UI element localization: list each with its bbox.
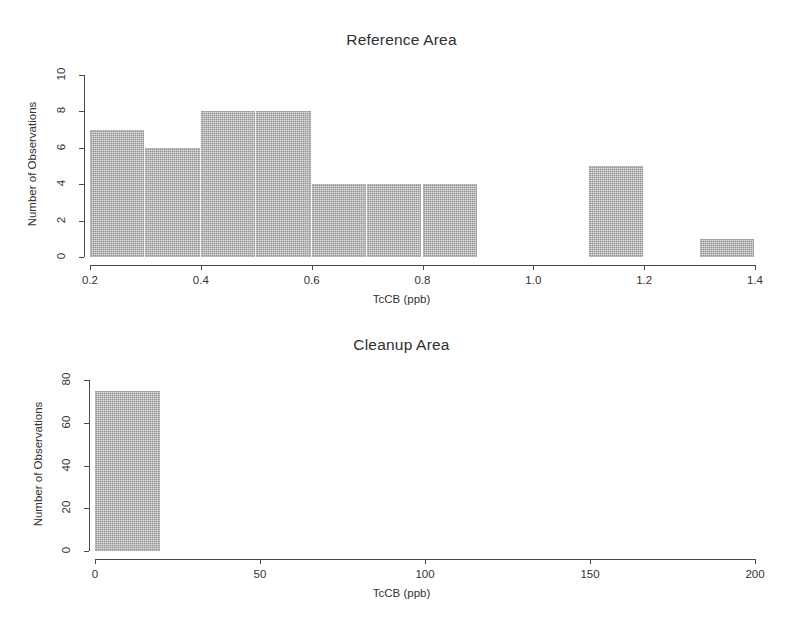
x-axis-tick-label: 50: [254, 568, 267, 580]
y-axis-tick: [84, 466, 89, 467]
y-axis-tick: [84, 508, 89, 509]
x-axis-tick-label: 100: [415, 568, 434, 580]
y-axis-tick: [84, 423, 89, 424]
cleanup-area-plot: [95, 380, 755, 551]
x-axis-tick: [260, 559, 261, 564]
x-axis-tick: [755, 265, 756, 270]
x-axis-tick: [201, 265, 202, 270]
x-axis-tick-label: 1.4: [747, 274, 763, 286]
x-axis-tick: [755, 559, 756, 564]
x-axis-tick-label: 1.2: [636, 274, 652, 286]
x-axis-tick-label: 0.4: [193, 274, 209, 286]
y-axis-tick-label: 60: [60, 407, 72, 437]
y-axis-tick: [79, 257, 84, 258]
y-axis-tick-label: 80: [60, 364, 72, 394]
histogram-bar: [589, 166, 643, 257]
y-axis-tick-label: 0: [55, 241, 67, 271]
reference-area-plot: [90, 75, 755, 257]
histogram-bar: [256, 111, 310, 257]
y-axis-line: [89, 380, 90, 551]
y-axis-tick-label: 2: [55, 205, 67, 235]
y-axis-tick-label: 10: [55, 59, 67, 89]
x-axis-tick: [423, 265, 424, 270]
x-axis-tick: [590, 559, 591, 564]
x-axis-tick: [644, 265, 645, 270]
cleanup-area-panel: Cleanup Area Number of Observations TcCB…: [0, 320, 803, 641]
chart-title-reference: Reference Area: [0, 31, 803, 49]
x-axis-tick: [90, 265, 91, 270]
y-axis-tick-label: 6: [55, 132, 67, 162]
histogram-bar: [312, 184, 366, 257]
x-axis-tick-label: 200: [745, 568, 764, 580]
y-axis-tick-label: 40: [60, 450, 72, 480]
y-axis-tick-label: 4: [55, 168, 67, 198]
x-axis-tick: [312, 265, 313, 270]
y-axis-tick: [79, 184, 84, 185]
histogram-bar: [201, 111, 255, 257]
y-axis-tick: [79, 221, 84, 222]
x-axis-tick-label: 0: [92, 568, 98, 580]
y-axis-tick-label: 8: [55, 95, 67, 125]
histogram-bar: [423, 184, 477, 257]
y-axis-tick: [79, 148, 84, 149]
x-axis-label-cleanup: TcCB (ppb): [0, 587, 803, 599]
y-axis-tick: [79, 111, 84, 112]
x-axis-tick-label: 1.0: [525, 274, 541, 286]
histogram-bar: [700, 239, 754, 257]
y-axis-tick: [84, 551, 89, 552]
y-axis-tick-label: 0: [60, 535, 72, 565]
histogram-bar: [95, 391, 160, 551]
histogram-bar: [90, 130, 144, 257]
y-axis-label-reference: Number of Observations: [26, 43, 38, 285]
y-axis-label-cleanup: Number of Observations: [31, 348, 43, 579]
x-axis-tick: [425, 559, 426, 564]
y-axis-line: [84, 75, 85, 257]
x-axis-tick: [533, 265, 534, 270]
x-axis-label-reference: TcCB (ppb): [0, 293, 803, 305]
x-axis-tick-label: 0.6: [304, 274, 320, 286]
x-axis-tick-label: 0.2: [82, 274, 98, 286]
reference-area-panel: Reference Area Number of Observations Tc…: [0, 0, 803, 320]
chart-title-cleanup: Cleanup Area: [0, 336, 803, 354]
histogram-bar: [367, 184, 421, 257]
y-axis-tick-label: 20: [60, 492, 72, 522]
y-axis-tick: [84, 380, 89, 381]
x-axis-tick-label: 0.8: [415, 274, 431, 286]
histogram-bar: [145, 148, 199, 257]
x-axis-tick: [95, 559, 96, 564]
x-axis-tick-label: 150: [580, 568, 599, 580]
y-axis-tick: [79, 75, 84, 76]
